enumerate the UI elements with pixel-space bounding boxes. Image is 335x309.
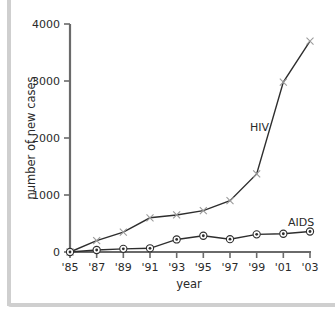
hiv-series-label: HIV	[250, 121, 270, 134]
circle-dot-marker-icon	[146, 245, 153, 252]
circle-dot-marker-icon	[253, 231, 260, 238]
cross-marker-icon	[120, 229, 127, 236]
circle-dot-marker-icon	[200, 232, 207, 239]
marker-dot	[95, 249, 98, 252]
aids-line	[70, 231, 310, 252]
marker-dot	[122, 247, 125, 250]
y-tick-label: 4000	[32, 18, 60, 31]
circle-dot-marker-icon	[93, 246, 100, 253]
y-axis-title: number of new cases	[24, 76, 38, 199]
x-tick-label: '91	[141, 261, 158, 274]
x-axis-ticks: '85'87'89'91'93'95'97'99'01'03	[61, 252, 318, 274]
x-tick-label: '87	[88, 261, 105, 274]
marker-dot	[202, 234, 205, 237]
x-tick-label: '97	[221, 261, 238, 274]
cross-marker-icon	[307, 38, 314, 45]
marker-dot	[309, 230, 312, 233]
series-hiv	[67, 38, 314, 256]
circle-dot-marker-icon	[120, 245, 127, 252]
x-tick-label: '99	[248, 261, 265, 274]
circle-dot-marker-icon	[66, 248, 73, 255]
x-axis-title: year	[176, 277, 202, 291]
marker-dot	[229, 238, 232, 241]
cross-marker-icon	[93, 237, 100, 244]
aids-series-label: AIDS	[288, 216, 314, 229]
circle-dot-marker-icon	[173, 236, 180, 243]
axes	[69, 24, 311, 253]
x-tick-label: '95	[195, 261, 212, 274]
marker-dot	[255, 233, 258, 236]
circle-dot-marker-icon	[280, 230, 287, 237]
x-tick-label: '93	[168, 261, 185, 274]
x-tick-label: '85	[61, 261, 78, 274]
marker-dot	[282, 232, 285, 235]
series-group	[66, 38, 313, 256]
marker-dot	[149, 247, 152, 250]
x-tick-label: '89	[115, 261, 132, 274]
x-tick-label: '01	[275, 261, 292, 274]
marker-dot	[175, 238, 178, 241]
line-chart: 01000200030004000 '85'87'89'91'93'95'97'…	[0, 0, 335, 309]
marker-dot	[69, 251, 72, 254]
x-tick-label: '03	[301, 261, 318, 274]
cross-marker-icon	[227, 197, 234, 204]
y-tick-label: 0	[53, 246, 60, 259]
circle-dot-marker-icon	[226, 236, 233, 243]
hiv-line	[70, 41, 310, 252]
